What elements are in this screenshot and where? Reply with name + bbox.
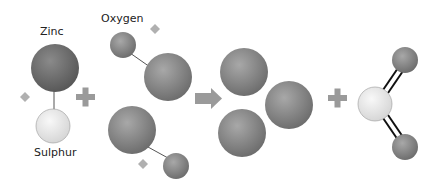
- zinc-label: Zinc: [40, 25, 64, 38]
- diamond-icon: [20, 92, 30, 102]
- plus-icon: [76, 88, 95, 107]
- sulphur-dioxide-molecule: [358, 47, 418, 160]
- oxygen-molecule: [110, 32, 192, 101]
- sulphur-atom: [36, 109, 70, 143]
- diamond-icon: [138, 159, 148, 169]
- oxygen-atom: [392, 47, 418, 73]
- oxygen-atom: [144, 53, 192, 101]
- oxygen-atom: [110, 32, 136, 58]
- oxygen-atom: [392, 134, 418, 160]
- oxygen-label: Oxygen: [101, 12, 143, 25]
- arrow-icon: [195, 88, 222, 109]
- zinc-atom: [31, 44, 79, 92]
- plus-icon: [328, 89, 347, 108]
- sulphur-label: Sulphur: [34, 146, 76, 159]
- oxygen-atom: [163, 153, 189, 179]
- product-atom: [220, 48, 268, 96]
- diamond-icon: [150, 24, 160, 34]
- zinc-sulphide-molecule: [31, 44, 79, 143]
- oxygen-atom: [108, 106, 156, 154]
- reaction-diagram: [0, 0, 446, 188]
- oxygen-molecule: [108, 106, 189, 179]
- product-atom: [265, 81, 313, 129]
- sulphur-atom: [358, 87, 392, 121]
- product-atom: [218, 109, 266, 157]
- zinc-oxide-group: [218, 48, 313, 157]
